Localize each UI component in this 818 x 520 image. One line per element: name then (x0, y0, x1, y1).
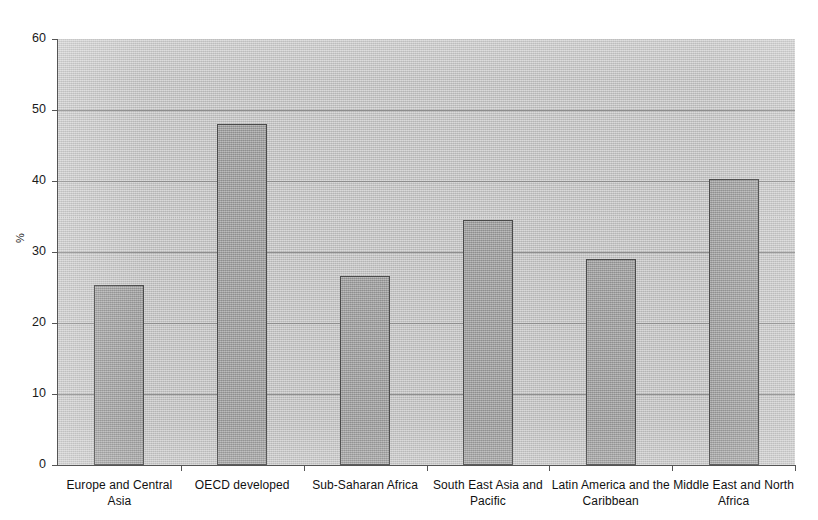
y-tick-label: 10 (2, 387, 46, 400)
y-tick-mark (52, 394, 57, 395)
y-axis-ticks: 0102030405060 (0, 0, 52, 520)
category-label: Latin America and the Caribbean (549, 477, 672, 509)
bar-texture (587, 260, 635, 464)
bar (709, 179, 759, 465)
y-tick-mark (52, 181, 57, 182)
x-tick-mark (304, 466, 305, 471)
bar-texture (95, 286, 143, 464)
bar-texture (710, 180, 758, 464)
gridline-20 (58, 323, 795, 324)
y-tick-label: 60 (2, 32, 46, 45)
minor-gridline-35 (58, 217, 795, 218)
gridline-40 (58, 181, 795, 182)
bar-texture (218, 125, 266, 464)
bar-texture (341, 277, 389, 464)
category-label: South East Asia and Pacific (427, 477, 550, 509)
y-tick-mark (52, 323, 57, 324)
y-tick-label: 30 (2, 245, 46, 258)
category-label: Sub-Saharan Africa (304, 477, 427, 493)
bar (586, 259, 636, 465)
x-tick-mark (549, 466, 550, 471)
bar (463, 220, 513, 465)
category-label: Middle East and North Africa (672, 477, 795, 509)
y-tick-mark (52, 39, 57, 40)
bar-chart: 0102030405060 % Europe and Central AsiaO… (0, 0, 818, 520)
gridline-30 (58, 252, 795, 253)
y-tick-label: 50 (2, 103, 46, 116)
x-tick-mark (181, 466, 182, 471)
bar (94, 285, 144, 465)
y-axis-title: % (14, 233, 26, 243)
category-label: OECD developed (181, 477, 304, 493)
bar (340, 276, 390, 465)
y-tick-label: 20 (2, 316, 46, 329)
y-axis-line (57, 39, 58, 466)
x-tick-mark (672, 466, 673, 471)
plot-area (58, 39, 795, 465)
x-tick-mark (795, 466, 796, 471)
y-tick-mark (52, 110, 57, 111)
y-tick-label: 0 (2, 458, 46, 471)
gridline-50 (58, 110, 795, 111)
y-tick-mark (52, 465, 57, 466)
x-tick-mark (427, 466, 428, 471)
y-tick-mark (52, 252, 57, 253)
category-label: Europe and Central Asia (58, 477, 181, 509)
y-tick-label: 40 (2, 174, 46, 187)
gridline-10 (58, 394, 795, 395)
bar (217, 124, 267, 465)
bar-texture (464, 221, 512, 464)
